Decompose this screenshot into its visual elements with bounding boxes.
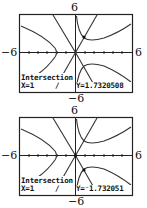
y-readout: Y=⁻1.732051 [76,185,123,193]
x-readout: X=1 [21,185,34,193]
intersection-marker [82,168,85,171]
cursor-mark: / [55,82,59,90]
cursor-mark: / [55,185,59,193]
y-readout: Y=1.7320508 [76,82,123,90]
graph-panel-2: 6 −6 6 −6 Intersection X=1 / Y=⁻1.732051 [0,104,147,208]
graph-panel-1: 6 −6 6 −6 Intersection X=1 / Y=1.7320508 [0,0,147,104]
x-readout: X=1 [21,82,34,90]
origin-marker [74,154,77,157]
intersection-marker [82,35,85,38]
